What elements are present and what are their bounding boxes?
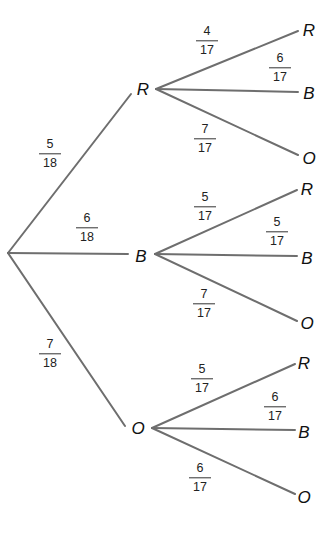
leaf-r-b: B [303, 85, 314, 102]
fraction-numerator: 6 [194, 462, 207, 477]
fraction-numerator: 4 [201, 25, 214, 40]
leaf-o-o: O [297, 489, 310, 506]
probability-second-b-r: 517 [194, 191, 216, 222]
probability-second-r-r: 417 [196, 25, 218, 56]
fraction-denominator: 18 [40, 154, 60, 170]
probability-tree-diagram: R518R417B617O717B618R517B517O717O718R517… [0, 0, 327, 547]
leaf-r-o: O [302, 150, 315, 167]
probability-second-b-b: 517 [266, 216, 288, 247]
probability-first-b: 618 [76, 212, 98, 243]
probability-second-b-o: 717 [193, 288, 215, 319]
second-branch-o-o [152, 428, 295, 494]
probability-second-r-b: 617 [269, 52, 291, 83]
fraction-denominator: 17 [197, 41, 217, 57]
fraction-numerator: 6 [274, 52, 287, 67]
fraction-numerator: 6 [269, 391, 282, 406]
leaf-r-r: R [303, 22, 315, 39]
leaf-o-b: B [298, 424, 309, 441]
second-branch-r-b [156, 89, 298, 92]
fraction-denominator: 17 [195, 207, 215, 223]
second-branch-r-o [156, 89, 298, 155]
leaf-b-b: B [301, 250, 312, 267]
fraction-numerator: 7 [198, 288, 211, 303]
leaf-b-r: R [301, 181, 313, 198]
first-branch-r [8, 94, 131, 253]
probability-second-o-o: 617 [189, 462, 211, 493]
fraction-numerator: 5 [199, 191, 212, 206]
first-branch-o [8, 253, 125, 426]
fraction-denominator: 17 [267, 232, 287, 248]
fraction-numerator: 5 [44, 138, 57, 153]
fraction-numerator: 7 [44, 338, 57, 353]
fraction-denominator: 17 [270, 68, 290, 84]
node-o: O [131, 420, 144, 437]
leaf-o-r: R [298, 355, 310, 372]
fraction-denominator: 17 [194, 304, 214, 320]
first-branch-b [8, 253, 128, 254]
fraction-denominator: 18 [77, 228, 97, 244]
probability-first-o: 718 [39, 338, 61, 369]
node-r: R [137, 81, 149, 98]
fraction-denominator: 17 [192, 379, 212, 395]
probability-second-r-o: 717 [194, 123, 216, 154]
fraction-numerator: 5 [271, 216, 284, 231]
second-branch-b-b [155, 254, 297, 256]
node-b: B [135, 248, 146, 265]
fraction-numerator: 6 [81, 212, 94, 227]
fraction-denominator: 17 [265, 407, 285, 423]
second-branch-o-b [152, 428, 295, 430]
fraction-denominator: 17 [190, 478, 210, 494]
second-branch-b-o [155, 254, 297, 321]
probability-first-r: 518 [39, 138, 61, 169]
fraction-denominator: 18 [40, 354, 60, 370]
leaf-b-o: O [300, 315, 313, 332]
fraction-denominator: 17 [195, 139, 215, 155]
probability-second-o-b: 617 [264, 391, 286, 422]
probability-second-o-r: 517 [191, 363, 213, 394]
fraction-numerator: 5 [196, 363, 209, 378]
fraction-numerator: 7 [199, 123, 212, 138]
